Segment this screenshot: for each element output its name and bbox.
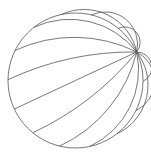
geodesic-arc bbox=[90, 52, 139, 147]
geodesic-arc bbox=[8, 52, 137, 80]
geodesic-arc bbox=[61, 9, 136, 52]
geodesic-arc bbox=[14, 52, 136, 109]
poincare-disk-diagram bbox=[0, 0, 151, 157]
geodesic-arc bbox=[15, 37, 137, 52]
geodesic-arc bbox=[60, 52, 137, 146]
geodesic-arcs bbox=[8, 9, 151, 146]
geodesic-arc bbox=[117, 52, 148, 134]
